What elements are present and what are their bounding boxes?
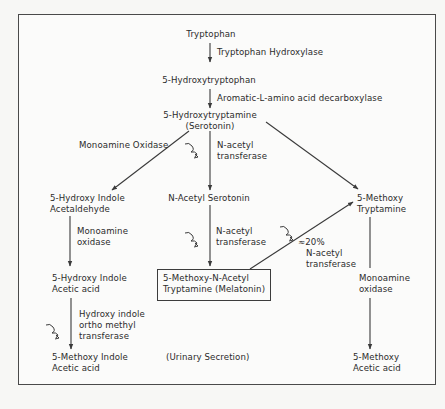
enzyme-hiomt-line3: transferase	[79, 331, 145, 342]
node-urinary-secretion: (Urinary Secretion)	[166, 352, 249, 363]
wavy-arrow-icon	[46, 324, 59, 339]
node-5miaa-line1: 5-Methoxy Indole	[52, 352, 128, 363]
node-5-hydroxy-indole-acetic-acid: 5-Hydroxy Indole Acetic acid	[52, 273, 127, 295]
enzyme-monoamine-oxidase-left: Monoamine oxidase	[77, 226, 128, 248]
node-5hiaa-line1: 5-Hydroxy Indole	[52, 273, 127, 284]
node-methoxytryptamine-line2: Tryptamine	[357, 204, 406, 215]
enzyme-tryptophan-hydroxylase: Tryptophan Hydroxylase	[217, 47, 323, 58]
enzyme-aromatic-decarboxylase: Aromatic-L-amino acid decarboxylase	[217, 93, 382, 104]
enzyme-nat-upper-line2: transferase	[217, 151, 267, 162]
node-serotonin: 5-Hydroxytryptamine (Serotonin)	[163, 110, 257, 132]
enzyme-hiomt-line2: ortho methyl	[79, 320, 145, 331]
arrow-serotonin-to-methoxytryptamine	[266, 122, 358, 189]
wavy-arrow-icon	[280, 226, 293, 241]
enzyme-mao-left-line2: oxidase	[77, 237, 128, 248]
enzyme-mao-left-line1: Monoamine	[77, 226, 128, 237]
node-5hiaa-line2: Acetic acid	[52, 284, 127, 295]
node-5-methoxy-indole-acetic-acid: 5-Methoxy Indole Acetic acid	[52, 352, 128, 374]
node-melatonin-line2: Tryptamine (Melatonin)	[163, 284, 265, 295]
enzyme-nat-diag-line1: N-acetyl	[298, 248, 356, 259]
enzyme-hydroxy-indole-ortho-methyl-transferase: Hydroxy indole ortho methyl transferase	[79, 309, 145, 341]
node-serotonin-line1: 5-Hydroxytryptamine	[163, 110, 257, 121]
enzyme-monoamine-oxidase-upper: Monoamine Oxidase	[79, 140, 168, 151]
enzyme-mao-right-line2: oxidase	[359, 284, 410, 295]
node-acetaldehyde-line1: 5-Hydroxy Indole	[50, 193, 125, 204]
node-methoxytryptamine-line1: 5-Methoxy	[357, 193, 406, 204]
enzyme-monoamine-oxidase-right: Monoamine oxidase	[359, 273, 410, 295]
node-5-hydroxytryptophan: 5-Hydroxytryptophan	[162, 75, 256, 86]
enzyme-nat-diag-line2: transferase	[298, 259, 356, 270]
enzyme-hiomt-line1: Hydroxy indole	[79, 309, 145, 320]
node-melatonin: 5-Methoxy-N-Acetyl Tryptamine (Melatonin…	[163, 273, 265, 295]
enzyme-mao-right-line1: Monoamine	[359, 273, 410, 284]
enzyme-n-acetyl-transferase-middle: N-acetyl transferase	[216, 226, 266, 248]
enzyme-nat-middle-line2: transferase	[216, 237, 266, 248]
enzyme-nat-upper-line1: N-acetyl	[217, 140, 267, 151]
enzyme-n-acetyl-transferase-diagonal: ≈20% N-acetyl transferase	[298, 237, 356, 269]
enzyme-n-acetyl-transferase-upper: N-acetyl transferase	[217, 140, 267, 162]
enzyme-nat-diag-percent: ≈20%	[298, 237, 356, 248]
node-5-methoxy-tryptamine: 5-Methoxy Tryptamine	[357, 193, 406, 215]
enzyme-nat-middle-line1: N-acetyl	[216, 226, 266, 237]
node-5miaa-line2: Acetic acid	[52, 363, 128, 374]
node-methoxyacid-line2: Acetic acid	[353, 363, 401, 374]
node-tryptophan: Tryptophan	[186, 29, 235, 40]
node-serotonin-line2: (Serotonin)	[163, 121, 257, 132]
wavy-arrow-icon	[185, 143, 198, 158]
node-5-methoxy-acetic-acid: 5-Methoxy Acetic acid	[353, 352, 401, 374]
node-methoxyacid-line1: 5-Methoxy	[353, 352, 401, 363]
wavy-arrow-icon	[185, 232, 198, 247]
node-n-acetyl-serotonin: N-Acetyl Serotonin	[168, 193, 250, 204]
node-melatonin-line1: 5-Methoxy-N-Acetyl	[163, 273, 265, 284]
node-acetaldehyde-line2: Acetaldehyde	[50, 204, 125, 215]
node-5-hydroxy-indole-acetaldehyde: 5-Hydroxy Indole Acetaldehyde	[50, 193, 125, 215]
